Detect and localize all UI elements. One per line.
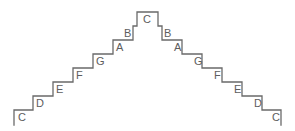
note-label-b-descending: B: [164, 28, 171, 39]
note-label-c-low-right: C: [272, 112, 280, 123]
note-label-f-ascending: F: [76, 70, 83, 81]
note-label-f-descending: F: [214, 70, 221, 81]
diagram-canvas: C D E F G A B C B A G F E D C: [0, 0, 295, 131]
staircase-step-path: [14, 12, 281, 125]
note-label-d-descending: D: [254, 98, 262, 109]
note-label-c-low: C: [18, 112, 26, 123]
note-label-d-ascending: D: [36, 98, 44, 109]
note-label-c-apex: C: [143, 14, 151, 25]
note-label-b-ascending: B: [124, 28, 131, 39]
note-label-e-ascending: E: [56, 84, 63, 95]
note-label-a-ascending: A: [116, 42, 123, 53]
note-label-g-ascending: G: [96, 56, 105, 67]
note-label-g-descending: G: [194, 56, 203, 67]
note-label-a-descending: A: [174, 42, 181, 53]
note-label-e-descending: E: [234, 84, 241, 95]
